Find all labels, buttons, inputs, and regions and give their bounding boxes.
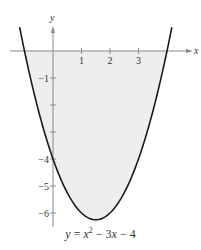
x-tick-label: 3 — [136, 55, 141, 66]
x-tick-label: 1 — [79, 55, 84, 66]
y-axis-label: y — [49, 12, 55, 23]
parabola-chart: x y 123 −1−4−5−6 — [0, 0, 201, 250]
y-axis-arrow-icon — [51, 26, 55, 33]
equation-caption: y = x2 − 3x − 4 — [0, 226, 201, 242]
x-tick-label: 2 — [108, 55, 113, 66]
x-axis-arrow-icon — [186, 49, 193, 53]
y-tick-label: −4 — [38, 154, 49, 165]
y-tick-label: −5 — [38, 181, 49, 192]
x-axis-label: x — [193, 45, 199, 56]
y-tick-label: −1 — [38, 73, 49, 84]
y-tick-label: −6 — [38, 208, 49, 219]
